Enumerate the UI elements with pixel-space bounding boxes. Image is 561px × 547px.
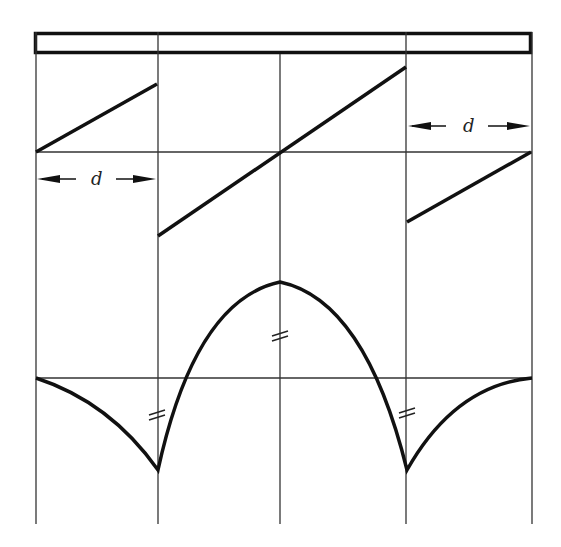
arrow-right-icon — [507, 122, 530, 130]
dimension-label-right: d — [463, 115, 475, 136]
load-bar — [36, 34, 531, 53]
dimension-left: d — [37, 168, 156, 189]
dimension-right: d — [408, 115, 530, 136]
dimension-label-left: d — [91, 168, 103, 189]
arrow-right-icon — [133, 175, 156, 183]
arrow-left-icon — [408, 122, 431, 130]
support-lines — [36, 32, 532, 524]
reference-axes — [36, 152, 532, 378]
moment-curve — [36, 282, 532, 470]
arrow-left-icon — [37, 175, 60, 183]
beam-diagram: d d — [0, 0, 561, 547]
